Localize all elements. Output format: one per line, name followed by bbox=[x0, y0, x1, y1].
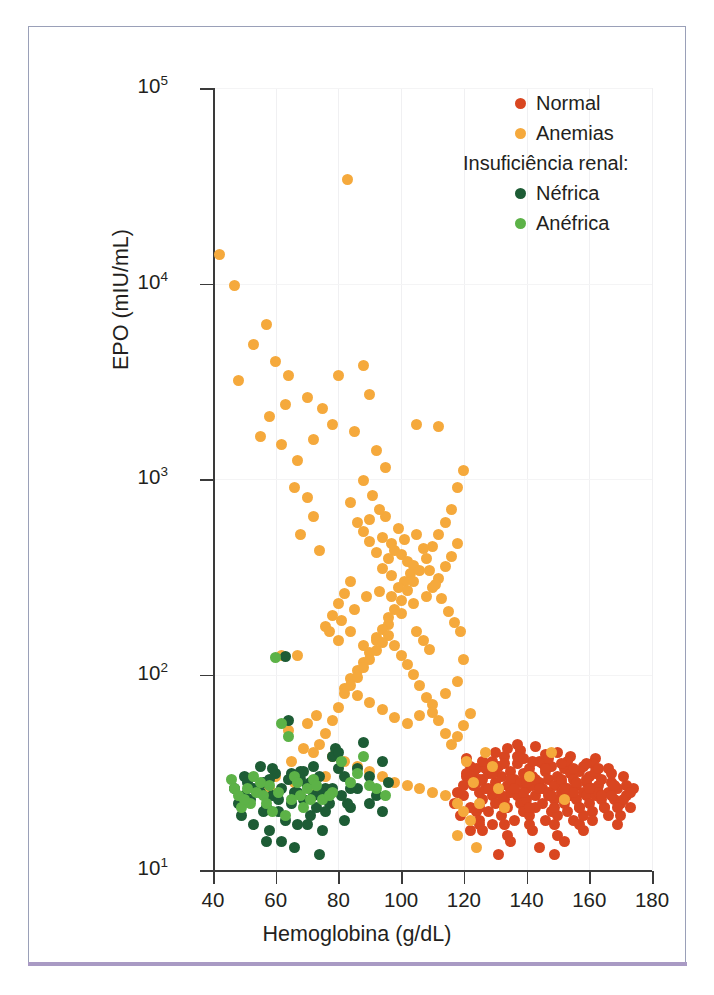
data-point-anemias bbox=[386, 570, 397, 581]
data-point-néfrica bbox=[264, 825, 275, 836]
data-point-anemias bbox=[374, 504, 385, 515]
data-point-anemias bbox=[559, 794, 570, 805]
data-point-anemias bbox=[452, 538, 463, 549]
gridline-horizontal bbox=[213, 675, 652, 676]
data-point-anéfrica bbox=[239, 794, 250, 805]
data-point-anemias bbox=[364, 514, 375, 525]
data-point-néfrica bbox=[289, 842, 300, 853]
data-point-néfrica bbox=[314, 849, 325, 860]
data-point-normal bbox=[505, 836, 516, 847]
data-point-anéfrica bbox=[336, 756, 347, 767]
legend-dot-anemias bbox=[515, 128, 526, 139]
y-axis-tick bbox=[200, 870, 213, 872]
data-point-anemias bbox=[399, 534, 410, 545]
data-point-anemias bbox=[446, 504, 457, 515]
x-axis-title: Hemoglobina (g/dL) bbox=[0, 922, 714, 947]
data-point-anemias bbox=[333, 598, 344, 609]
data-point-normal bbox=[518, 787, 529, 798]
data-point-anéfrica bbox=[280, 810, 291, 821]
data-point-normal bbox=[568, 787, 579, 798]
data-point-anemias bbox=[302, 718, 313, 729]
data-point-anemias bbox=[452, 482, 463, 493]
legend-item-anemias[interactable]: Anemias bbox=[463, 118, 683, 148]
data-point-normal bbox=[549, 849, 560, 860]
data-point-normal bbox=[612, 802, 623, 813]
data-point-normal bbox=[509, 783, 520, 794]
data-point-anemias bbox=[421, 591, 432, 602]
data-point-anemias bbox=[440, 688, 451, 699]
data-point-anemias bbox=[446, 551, 457, 562]
data-point-anemias bbox=[474, 798, 485, 809]
y-axis-tick bbox=[200, 284, 213, 286]
data-point-anemias bbox=[280, 399, 291, 410]
data-point-normal bbox=[487, 819, 498, 830]
x-axis-tick bbox=[652, 871, 654, 884]
legend-label-normal: Normal bbox=[536, 92, 600, 115]
data-point-néfrica bbox=[377, 756, 388, 767]
data-point-anemias bbox=[324, 626, 335, 637]
data-point-normal bbox=[534, 842, 545, 853]
x-axis-tick bbox=[464, 871, 466, 884]
legend-dot-normal bbox=[515, 98, 526, 109]
data-point-anemias bbox=[333, 702, 344, 713]
data-point-normal bbox=[581, 758, 592, 769]
data-point-anemias bbox=[546, 747, 557, 758]
data-point-anéfrica bbox=[283, 731, 294, 742]
data-point-anemias bbox=[499, 802, 510, 813]
data-point-anemias bbox=[308, 434, 319, 445]
data-point-anemias bbox=[452, 830, 463, 841]
data-point-anemias bbox=[471, 842, 482, 853]
data-point-anemias bbox=[468, 777, 479, 788]
data-point-anemias bbox=[436, 593, 447, 604]
data-point-anemias bbox=[414, 783, 425, 794]
data-point-anemias bbox=[229, 280, 240, 291]
data-point-anemias bbox=[440, 790, 451, 801]
data-point-anemias bbox=[367, 490, 378, 501]
data-point-anemias bbox=[377, 704, 388, 715]
y-axis-tick-label: 104 bbox=[0, 270, 190, 294]
data-point-normal bbox=[509, 815, 520, 826]
data-point-anéfrica bbox=[352, 768, 363, 779]
data-point-anemias bbox=[339, 688, 350, 699]
data-point-anemias bbox=[261, 319, 272, 330]
x-axis-tick bbox=[589, 871, 591, 884]
data-point-anemias bbox=[424, 565, 435, 576]
data-point-anemias bbox=[327, 419, 338, 430]
data-point-anemias bbox=[402, 585, 413, 596]
data-point-normal bbox=[512, 739, 523, 750]
data-point-néfrica bbox=[358, 737, 369, 748]
data-point-anemias bbox=[465, 815, 476, 826]
data-point-anemias bbox=[364, 536, 375, 547]
legend-item-anefrica[interactable]: Anéfrica bbox=[463, 208, 683, 238]
y-axis-tick-label: 101 bbox=[0, 856, 190, 880]
x-axis-tick bbox=[213, 871, 215, 884]
data-point-anemias bbox=[349, 604, 360, 615]
x-axis-tick bbox=[276, 871, 278, 884]
data-point-anemias bbox=[283, 370, 294, 381]
data-point-anemias bbox=[458, 465, 469, 476]
data-point-anemias bbox=[308, 747, 319, 758]
data-point-anemias bbox=[458, 720, 469, 731]
data-point-anemias bbox=[427, 707, 438, 718]
legend-item-normal[interactable]: Normal bbox=[463, 88, 683, 118]
legend-group-title-label: Insuficiência renal: bbox=[463, 152, 629, 175]
data-point-normal bbox=[493, 849, 504, 860]
data-point-néfrica bbox=[276, 836, 287, 847]
data-point-anemias bbox=[339, 588, 350, 599]
data-point-anemias bbox=[421, 553, 432, 564]
data-point-anemias bbox=[352, 517, 363, 528]
data-point-anemias bbox=[408, 598, 419, 609]
data-point-normal bbox=[502, 743, 513, 754]
data-point-normal bbox=[559, 783, 570, 794]
data-point-anemias bbox=[333, 635, 344, 646]
data-point-anemias bbox=[402, 718, 413, 729]
data-point-anemias bbox=[458, 654, 469, 665]
data-point-néfrica bbox=[255, 761, 266, 772]
data-point-anéfrica bbox=[270, 652, 281, 663]
data-point-normal bbox=[530, 741, 541, 752]
data-point-anemias bbox=[430, 579, 441, 590]
legend-item-nefrica[interactable]: Néfrica bbox=[463, 178, 683, 208]
legend-label-anefrica: Anéfrica bbox=[536, 212, 609, 235]
data-point-normal bbox=[559, 836, 570, 847]
data-point-normal bbox=[625, 787, 636, 798]
